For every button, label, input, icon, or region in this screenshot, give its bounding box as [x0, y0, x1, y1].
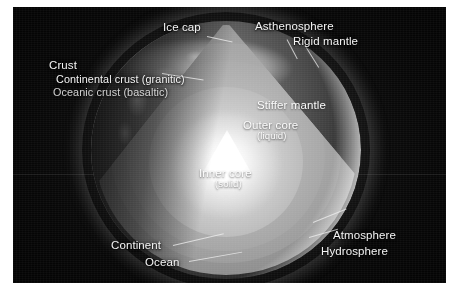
- label-outer-core-state: (liquid): [257, 131, 287, 142]
- label-oceanic-crust: Oceanic crust (basaltic): [53, 86, 168, 98]
- earth-structure-figure: Ice cap Asthenosphere Rigid mantle Crust…: [0, 0, 456, 294]
- label-crust: Crust: [49, 59, 77, 72]
- label-ocean: Ocean: [145, 256, 179, 269]
- image-plate: Ice cap Asthenosphere Rigid mantle Crust…: [13, 7, 446, 283]
- label-continent: Continent: [111, 239, 161, 252]
- label-rigid-mantle: Rigid mantle: [293, 35, 358, 48]
- label-continental-crust: Continental crust (granitic): [56, 73, 185, 85]
- label-stiffer-mantle: Stiffer mantle: [257, 99, 326, 112]
- label-atmosphere: Atmosphere: [333, 229, 396, 242]
- label-asthenosphere: Asthenosphere: [255, 20, 334, 33]
- label-inner-core-state: (solid): [215, 179, 242, 190]
- label-ice-cap: Ice cap: [163, 21, 201, 34]
- label-hydrosphere: Hydrosphere: [321, 245, 388, 258]
